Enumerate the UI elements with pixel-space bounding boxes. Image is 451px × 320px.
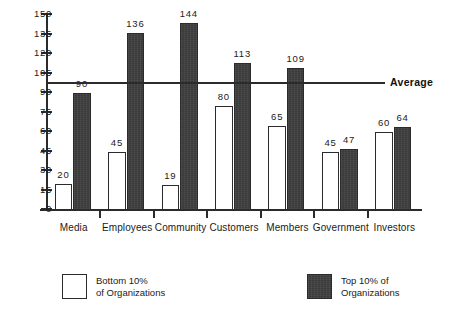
legend-item-top-10: Top 10% of Organizations: [307, 274, 400, 299]
bar-media-bottom10: [55, 184, 73, 210]
bar-government-bottom10: [322, 152, 340, 211]
bar-value-label: 109: [282, 54, 310, 64]
category-label-investors: Investors: [354, 222, 434, 233]
chart-legend: Bottom 10% of Organizations Top 10% of O…: [0, 262, 451, 320]
bar-value-label: 64: [389, 113, 417, 123]
x-tick-mark: [260, 210, 262, 218]
bar-value-label: 136: [121, 19, 149, 29]
bar-customers-bottom10: [215, 106, 233, 210]
bar-value-label: 47: [335, 135, 363, 145]
bar-value-label: 144: [175, 9, 203, 19]
bars-layer: 20904513619144801136510945476064: [0, 0, 451, 210]
x-tick-mark: [99, 210, 101, 218]
bar-employees-bottom10: [108, 152, 126, 211]
average-line: [46, 82, 385, 85]
plot-area: 0153045607590105120135150 20904513619144…: [0, 0, 451, 260]
legend-label-top-10-line1: Top 10% of: [341, 275, 400, 287]
bar-members-top10: [287, 68, 305, 210]
bar-customers-top10: [234, 63, 252, 210]
legend-label-top-10: Top 10% of Organizations: [341, 275, 400, 298]
legend-label-bottom-10-line2: of Organizations: [96, 287, 165, 299]
legend-item-bottom-10: Bottom 10% of Organizations: [62, 274, 165, 299]
bar-employees-top10: [127, 33, 145, 210]
legend-swatch-dark-box: [307, 274, 332, 299]
x-tick-mark: [153, 210, 155, 218]
bar-chart: 0153045607590105120135150 20904513619144…: [0, 0, 451, 320]
legend-swatch-white-box: [62, 274, 87, 299]
average-label: Average: [390, 76, 433, 88]
legend-label-top-10-line2: Organizations: [341, 287, 400, 299]
bar-government-top10: [340, 149, 358, 210]
bar-investors-bottom10: [375, 132, 393, 210]
bar-community-top10: [180, 23, 198, 210]
bar-community-bottom10: [162, 185, 180, 210]
x-tick-mark: [313, 210, 315, 218]
bar-investors-top10: [394, 127, 412, 210]
bar-members-bottom10: [268, 126, 286, 211]
x-tick-mark: [206, 210, 208, 218]
bar-value-label: 113: [228, 49, 256, 59]
bar-media-top10: [73, 93, 91, 210]
x-tick-mark: [367, 210, 369, 218]
legend-label-bottom-10: Bottom 10% of Organizations: [96, 275, 165, 298]
legend-label-bottom-10-line1: Bottom 10%: [96, 275, 165, 287]
